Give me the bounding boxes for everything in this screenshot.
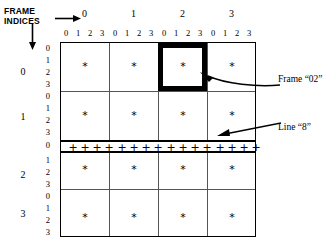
sub-col-label-10: 2	[182, 28, 194, 38]
plus-mark-14: +	[238, 142, 250, 154]
sub-col-label-5: 1	[121, 28, 133, 38]
sub-row-label-8: 0	[38, 140, 50, 150]
sub-row-label-14: 2	[38, 215, 50, 225]
cell-mark-r0c1: *	[129, 62, 139, 72]
line-annotation-arrow-icon	[205, 120, 281, 142]
sub-row-label-11: 3	[38, 179, 50, 189]
frame-row-label-2: 2	[16, 169, 30, 181]
cell-mark-r2c0: *	[80, 165, 90, 175]
plus-mark-6: +	[140, 142, 152, 154]
sub-col-label-11: 3	[194, 28, 206, 38]
sub-row-label-2: 2	[38, 67, 50, 77]
sub-col-label-13: 1	[219, 28, 231, 38]
plus-mark-12: +	[214, 142, 226, 154]
cell-mark-r2c3: *	[227, 165, 237, 175]
sub-row-label-1: 1	[38, 55, 50, 65]
sub-row-label-10: 2	[38, 167, 50, 177]
frame-indices-label: FRAME INDICES	[4, 6, 56, 26]
line-annotation-label: Line “8”	[278, 122, 311, 133]
frame-col-label-1: 1	[109, 8, 158, 20]
sub-col-label-15: 3	[243, 28, 255, 38]
sub-col-label-12: 0	[207, 28, 219, 38]
sub-col-label-14: 2	[231, 28, 243, 38]
sub-row-label-7: 3	[38, 127, 50, 137]
frame-col-label-0: 0	[60, 8, 109, 20]
sub-col-label-4: 0	[109, 28, 121, 38]
sub-col-label-3: 3	[96, 28, 108, 38]
frame-indices-label-line1: FRAME	[4, 6, 56, 16]
cell-mark-r1c0: *	[80, 111, 90, 121]
sub-col-label-1: 1	[72, 28, 84, 38]
cell-mark-r2c1: *	[129, 165, 139, 175]
sub-row-label-0: 0	[38, 43, 50, 53]
sub-col-label-2: 2	[84, 28, 96, 38]
plus-mark-15: +	[250, 142, 262, 154]
plus-mark-4: +	[116, 142, 128, 154]
cell-mark-r3c1: *	[129, 213, 139, 223]
grid-hline-1	[61, 91, 255, 92]
sub-row-label-9: 1	[38, 155, 50, 165]
plus-mark-3: +	[103, 142, 115, 154]
cell-mark-r1c1: *	[129, 111, 139, 121]
cell-mark-r1c2: *	[178, 111, 188, 121]
plus-mark-10: +	[189, 142, 201, 154]
frame-row-label-0: 0	[16, 66, 30, 78]
plus-mark-8: +	[165, 142, 177, 154]
sub-row-label-15: 3	[38, 227, 50, 237]
plus-mark-5: +	[128, 142, 140, 154]
frame-row-label-1: 1	[16, 111, 30, 123]
cell-mark-r3c0: *	[80, 213, 90, 223]
plus-mark-11: +	[201, 142, 213, 154]
sub-row-label-6: 2	[38, 115, 50, 125]
cell-mark-r3c2: *	[178, 213, 188, 223]
cell-mark-r2c2: *	[178, 165, 188, 175]
frame-col-label-2: 2	[158, 8, 207, 20]
grid-hline-3	[61, 189, 255, 190]
sub-row-label-12: 0	[38, 191, 50, 201]
plus-mark-7: +	[152, 142, 164, 154]
sub-row-label-4: 0	[38, 91, 50, 101]
sub-row-label-5: 1	[38, 103, 50, 113]
sub-col-label-9: 1	[170, 28, 182, 38]
vertical-axis-arrow-icon	[28, 24, 37, 50]
cell-mark-r3c3: *	[227, 213, 237, 223]
plus-mark-0: +	[67, 142, 79, 154]
sub-col-label-0: 0	[60, 28, 72, 38]
sub-row-label-13: 1	[38, 203, 50, 213]
frame-col-label-3: 3	[207, 8, 256, 20]
sub-row-label-3: 3	[38, 79, 50, 89]
frame-annotation-arrow-icon	[196, 66, 280, 90]
sub-col-label-7: 3	[145, 28, 157, 38]
sub-col-label-6: 2	[133, 28, 145, 38]
plus-mark-1: +	[79, 142, 91, 154]
plus-mark-9: +	[177, 142, 189, 154]
plus-mark-2: +	[91, 142, 103, 154]
cell-mark-r0c0: *	[80, 62, 90, 72]
plus-mark-13: +	[226, 142, 238, 154]
frame-annotation-label: Frame “02”	[278, 74, 323, 85]
frame-row-label-3: 3	[16, 208, 30, 220]
sub-col-label-8: 0	[158, 28, 170, 38]
